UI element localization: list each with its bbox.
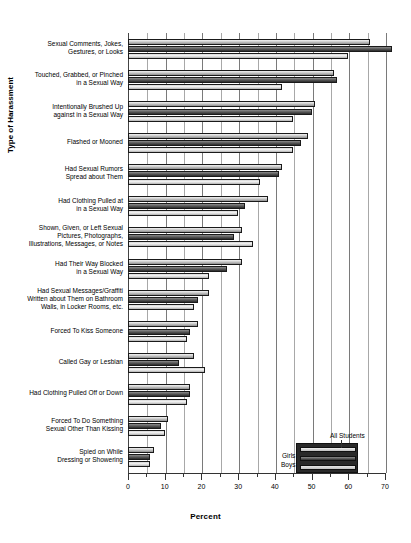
x-tick-label: 20 (190, 483, 212, 490)
x-tick-minor (220, 473, 221, 477)
bar-all (128, 39, 370, 45)
gridline-major (239, 33, 240, 473)
category-label: Had Clothing Pulled Off or Down (0, 389, 123, 397)
gridline-major (166, 33, 167, 473)
gridline-major (349, 33, 350, 473)
gridline-major (202, 33, 203, 473)
bar-girls (128, 391, 190, 397)
category-label: Shown, Given, or Left Sexual Pictures, P… (0, 224, 123, 248)
bar-boys (128, 430, 165, 436)
category-label: Intentionally Brushed Up against in a Se… (0, 103, 123, 119)
gridline-minor (368, 33, 369, 473)
gridline-minor (331, 33, 332, 473)
category-label: Forced To Do Something Sexual Other Than… (0, 417, 123, 433)
bar-girls (128, 454, 150, 460)
bar-boys (128, 304, 194, 310)
category-label: Spied on While Dressing or Showering (0, 448, 123, 464)
bar-girls (128, 140, 301, 146)
x-tick-label: 50 (301, 483, 323, 490)
category-label: Forced To Kiss Someone (0, 327, 123, 335)
x-tick-minor (183, 473, 184, 477)
bar-boys (128, 241, 253, 247)
category-label: Had Sexual Messages/Graffiti Written abo… (0, 287, 123, 311)
bar-girls (128, 329, 190, 335)
x-tick-label: 40 (264, 483, 286, 490)
bar-boys (128, 399, 187, 405)
bar-boys (128, 179, 260, 185)
bar-boys (128, 210, 238, 216)
category-label: Had Clothing Pulled at in a Sexual Way (0, 197, 123, 213)
gridline-major (276, 33, 277, 473)
plot-area (128, 33, 385, 473)
x-tick (165, 473, 166, 480)
bar-boys (128, 367, 205, 373)
bar-boys (128, 461, 150, 467)
x-tick-minor (293, 473, 294, 477)
bar-girls (128, 109, 312, 115)
bar-girls (128, 234, 234, 240)
x-tick-label: 0 (117, 483, 139, 490)
gridline-minor (258, 33, 259, 473)
legend-leader-line (341, 440, 342, 448)
bar-all (128, 70, 334, 76)
bar-all (128, 196, 268, 202)
x-tick-minor (146, 473, 147, 477)
category-label: Touched, Grabbed, or Pinched in a Sexual… (0, 71, 123, 87)
x-tick-label: 70 (374, 483, 396, 490)
bar-all (128, 384, 190, 390)
category-label: Flashed or Mooned (0, 138, 123, 146)
bar-all (128, 164, 282, 170)
category-label: Had Sexual Rumors Spread about Them (0, 165, 123, 181)
bar-all (128, 227, 242, 233)
bar-all (128, 353, 194, 359)
category-label: Sexual Comments, Jokes, Gestures, or Loo… (0, 40, 123, 56)
category-label: Had Their Way Blocked in a Sexual Way (0, 260, 123, 276)
gridline-minor (184, 33, 185, 473)
legend-swatch-boys (300, 465, 356, 470)
bar-all (128, 259, 242, 265)
legend-label-boys: Boys (281, 461, 295, 468)
x-tick (275, 473, 276, 480)
gridline-major (386, 33, 387, 473)
gridline-minor (294, 33, 295, 473)
bar-boys (128, 336, 187, 342)
bar-all (128, 447, 154, 453)
bar-girls (128, 203, 245, 209)
bar-boys (128, 273, 209, 279)
x-tick (128, 473, 129, 480)
bar-boys (128, 116, 293, 122)
x-tick-label: 60 (337, 483, 359, 490)
x-tick (201, 473, 202, 480)
legend-label-all-students: All Students (330, 432, 365, 439)
x-axis-label: Percent (0, 512, 411, 521)
bar-girls (128, 360, 179, 366)
x-tick (348, 473, 349, 480)
gridline-major (313, 33, 314, 473)
chart-figure: Percent Type of Harassment All Students … (0, 0, 411, 543)
x-tick (385, 473, 386, 480)
bar-girls (128, 171, 279, 177)
bar-girls (128, 266, 227, 272)
bar-all (128, 416, 168, 422)
bar-girls (128, 46, 392, 52)
x-tick (312, 473, 313, 480)
x-tick-minor (330, 473, 331, 477)
gridline-minor (221, 33, 222, 473)
x-tick-label: 10 (154, 483, 176, 490)
x-tick (238, 473, 239, 480)
bar-all (128, 101, 315, 107)
legend-swatch-all-students (300, 447, 356, 452)
gridline-minor (147, 33, 148, 473)
bar-all (128, 321, 198, 327)
bar-girls (128, 77, 337, 83)
bar-boys (128, 147, 293, 153)
category-label: Called Gay or Lesbian (0, 358, 123, 366)
legend-swatch-girls (300, 456, 356, 461)
x-tick-minor (257, 473, 258, 477)
bar-girls (128, 297, 198, 303)
legend-box (296, 443, 358, 473)
bar-boys (128, 84, 282, 90)
bar-all (128, 133, 308, 139)
legend-label-girls: Girls (282, 452, 295, 459)
bar-all (128, 290, 209, 296)
